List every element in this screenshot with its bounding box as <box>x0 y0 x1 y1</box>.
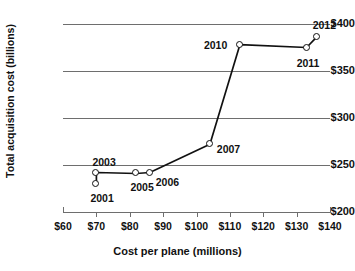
data-point-label-2011: 2011 <box>297 57 320 69</box>
data-point-2003 <box>92 169 99 176</box>
data-point-2010 <box>236 41 243 48</box>
data-point-2011 <box>303 44 310 51</box>
data-point-label-2005: 2005 <box>130 181 153 193</box>
data-point-label-2012: 2012 <box>313 19 336 31</box>
data-point-label-2010: 2010 <box>204 39 227 51</box>
chart-container: $200$250$300$350$400 Total acquisition c… <box>0 0 355 271</box>
data-point-label-2006: 2006 <box>156 176 179 188</box>
data-point-label-2003: 2003 <box>92 156 115 168</box>
data-point-2006 <box>146 169 153 176</box>
series-line-f35 <box>96 37 316 184</box>
series-polyline-group <box>0 0 355 271</box>
data-point-2012 <box>313 33 320 40</box>
plot-area: $200$250$300$350$400 Total acquisition c… <box>0 0 355 271</box>
data-point-label-2007: 2007 <box>217 143 240 155</box>
data-point-label-2001: 2001 <box>90 192 113 204</box>
